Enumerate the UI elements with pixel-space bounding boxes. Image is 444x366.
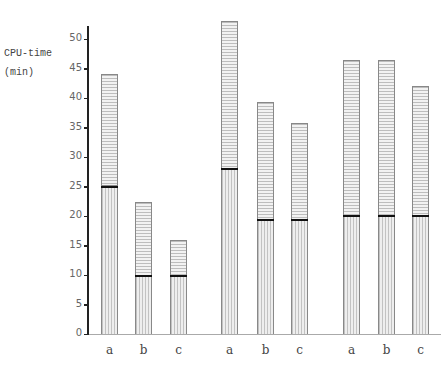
y-tick [84, 334, 89, 336]
bar-group2-a [221, 0, 238, 366]
x-tick-label: a [101, 343, 118, 357]
bar-segment-lower [257, 220, 274, 334]
bar-segment-lower [135, 276, 152, 334]
y-tick [84, 245, 89, 247]
y-tick [84, 275, 89, 277]
y-tick-label: 50 [52, 32, 82, 43]
segment-divider [291, 219, 308, 221]
x-tick-label: a [221, 343, 238, 357]
segment-divider [378, 215, 395, 217]
segment-divider [101, 186, 118, 188]
segment-divider [343, 215, 360, 217]
bar-segment-upper [101, 74, 118, 186]
bar-segment-lower [170, 276, 187, 334]
y-tick-label: 30 [52, 150, 82, 161]
segment-divider [412, 215, 429, 217]
bar-segment-upper [378, 60, 395, 216]
y-tick-label: 0 [52, 327, 82, 338]
bar-segment-upper [412, 86, 429, 216]
segment-divider [170, 275, 187, 277]
bar-segment-upper [221, 21, 238, 169]
y-tick [84, 304, 89, 306]
bar-group1-c [170, 0, 187, 366]
segment-divider [221, 168, 238, 170]
x-tick-label: b [378, 343, 395, 357]
bar-segment-upper [291, 123, 308, 219]
x-tick-label: c [291, 343, 308, 357]
y-tick-label: 45 [52, 62, 82, 73]
y-tick [84, 186, 89, 188]
y-tick-label: 15 [52, 239, 82, 250]
bar-segment-lower [378, 216, 395, 334]
y-tick-label: 40 [52, 91, 82, 102]
y-tick-label: 20 [52, 209, 82, 220]
x-tick-label: b [135, 343, 152, 357]
bar-group2-c [291, 0, 308, 366]
bar-group3-c [412, 0, 429, 366]
y-tick [84, 98, 89, 100]
bar-group1-b [135, 0, 152, 366]
bar-group1-a [101, 0, 118, 366]
segment-divider [135, 275, 152, 277]
bar-segment-upper [257, 102, 274, 220]
bar-segment-upper [135, 202, 152, 276]
bar-segment-lower [412, 216, 429, 334]
x-tick-label: c [412, 343, 429, 357]
y-tick [84, 127, 89, 129]
y-tick [84, 157, 89, 159]
y-tick-label: 35 [52, 121, 82, 132]
y-axis-label-line2: (min) [4, 67, 34, 78]
bar-segment-upper [343, 60, 360, 216]
y-tick-label: 25 [52, 180, 82, 191]
bar-segment-upper [170, 240, 187, 277]
y-axis [87, 26, 89, 335]
y-tick [84, 68, 89, 70]
x-tick-label: b [257, 343, 274, 357]
x-tick-label: c [170, 343, 187, 357]
bar-segment-lower [101, 187, 118, 335]
y-tick-label: 5 [52, 298, 82, 309]
y-tick [84, 216, 89, 218]
segment-divider [257, 219, 274, 221]
bar-group2-b [257, 0, 274, 366]
y-axis-label-line1: CPU-time [4, 48, 52, 59]
bar-segment-lower [343, 216, 360, 334]
bar-group3-b [378, 0, 395, 366]
bar-segment-lower [221, 169, 238, 334]
bar-group3-a [343, 0, 360, 366]
bar-segment-lower [291, 220, 308, 334]
y-tick [84, 39, 89, 41]
x-tick-label: a [343, 343, 360, 357]
y-tick-label: 10 [52, 268, 82, 279]
